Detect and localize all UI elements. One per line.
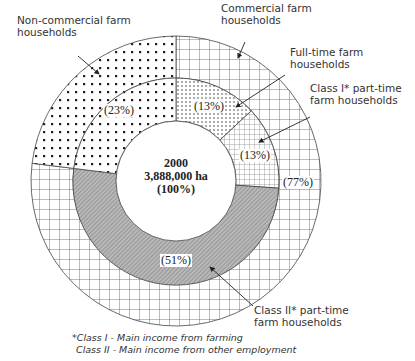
label-line: households xyxy=(221,14,312,26)
label-class-1: Class I* part-time farm households xyxy=(310,82,402,106)
footnotes: *Class I - Main income from farming Clas… xyxy=(72,332,296,356)
label-class-2: Class II* part-time farm households xyxy=(254,304,349,328)
label-full-time: Full-time farm households xyxy=(290,46,363,70)
label-non-commercial: Non-commercial farm households xyxy=(17,14,131,38)
pct-commercial: (77%) xyxy=(282,176,314,189)
label-line: Class II* part-time xyxy=(254,304,349,316)
footnote-class-1: *Class I - Main income from farming xyxy=(72,332,296,344)
label-line: households xyxy=(17,26,131,38)
center-label: 2000 3,888,000 ha (100%) xyxy=(118,157,234,196)
center-total: (100%) xyxy=(118,183,234,196)
label-line: Non-commercial farm xyxy=(17,14,131,26)
label-line: farm households xyxy=(254,316,349,328)
pct-non-commercial: (23%) xyxy=(103,104,135,117)
label-line: households xyxy=(290,58,363,70)
pct-class-1: (13%) xyxy=(239,149,271,162)
footnote-class-2: Class II - Main income from other employ… xyxy=(72,344,296,356)
label-line: Full-time farm xyxy=(290,46,363,58)
label-line: farm households xyxy=(310,94,402,106)
label-line: Class I* part-time xyxy=(310,82,402,94)
pct-full-time: (13%) xyxy=(193,100,225,113)
pct-class-2: (51%) xyxy=(160,254,192,267)
label-commercial: Commercial farm households xyxy=(221,2,312,26)
label-line: Commercial farm xyxy=(221,2,312,14)
